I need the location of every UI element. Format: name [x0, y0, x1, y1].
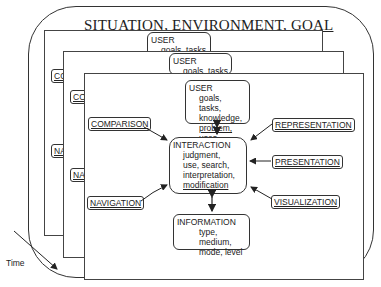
representation-arrow	[251, 124, 272, 140]
time-label: Time	[6, 258, 25, 268]
connector-arrows	[0, 0, 381, 287]
visualization-arrow	[251, 187, 272, 199]
comparison-arrow	[144, 127, 167, 140]
navigation-arrow	[141, 185, 167, 201]
